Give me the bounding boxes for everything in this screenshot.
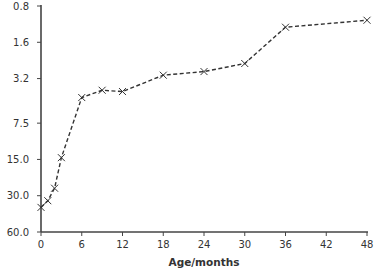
x-axis-ticks: 0612182430364248 xyxy=(38,232,374,250)
x-tick-label: 6 xyxy=(79,239,85,250)
data-point-marker xyxy=(44,197,51,204)
series-group xyxy=(38,17,371,211)
data-point-marker xyxy=(282,24,289,31)
data-point-marker xyxy=(99,87,106,94)
x-tick-label: 42 xyxy=(320,239,333,250)
data-point-marker xyxy=(241,60,248,67)
y-tick-label: 1.6 xyxy=(13,37,29,48)
y-tick-label: 3.2 xyxy=(13,73,29,84)
x-tick-label: 30 xyxy=(238,239,251,250)
data-point-marker xyxy=(160,72,167,79)
series-line xyxy=(41,20,367,207)
x-tick-label: 12 xyxy=(116,239,129,250)
axes xyxy=(41,5,368,232)
x-tick-label: 48 xyxy=(361,239,374,250)
x-tick-label: 18 xyxy=(157,239,170,250)
y-tick-label: 0.8 xyxy=(13,1,29,12)
x-axis-title: Age/months xyxy=(169,256,240,268)
y-tick-label: 7.5 xyxy=(13,118,29,129)
data-point-marker xyxy=(364,17,371,24)
data-point-marker xyxy=(78,94,85,101)
y-axis-ticks: 0.81.63.27.515.030.060.0 xyxy=(7,1,41,238)
y-tick-label: 60.0 xyxy=(7,227,29,238)
x-tick-label: 24 xyxy=(198,239,211,250)
chart: 0.81.63.27.515.030.060.0 061218243036424… xyxy=(0,0,379,276)
x-tick-label: 36 xyxy=(279,239,292,250)
y-tick-label: 30.0 xyxy=(7,190,29,201)
y-tick-label: 15.0 xyxy=(7,154,29,165)
x-tick-label: 0 xyxy=(38,239,44,250)
